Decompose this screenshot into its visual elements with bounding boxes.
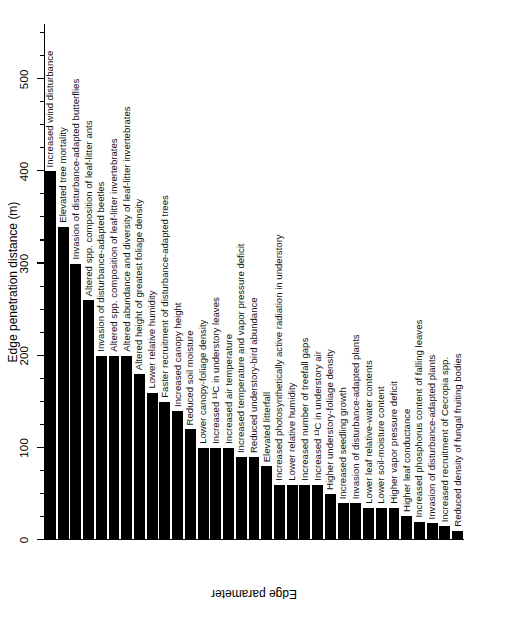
bar-row: Faster recruitment of disturbance-adapte… <box>159 24 170 540</box>
bar-row: Increased photosynthetically active radi… <box>274 24 285 540</box>
bar <box>96 356 107 540</box>
bar-label: Elevated tree mortality <box>58 127 68 222</box>
bar-row: Lower leaf relative-water contents <box>363 24 374 540</box>
bar <box>210 448 221 540</box>
bar-label: Reduced density of fungal fruiting bodie… <box>453 353 463 526</box>
bar-label: Increased photosynthetically active radi… <box>274 234 284 480</box>
bar <box>350 503 361 540</box>
bar <box>147 393 158 540</box>
axis-tick-minor-225 <box>40 332 45 333</box>
bar-row: Altered height of greatest foliage densi… <box>134 24 145 540</box>
plot-area: 0100200300400500 Increased wind disturba… <box>44 24 464 540</box>
bar-row: Higher understory-foliage density <box>325 24 336 540</box>
axis-tick-major-300 <box>37 262 44 263</box>
bar-row: Elevated tree mortality <box>58 24 69 540</box>
bar-row: Invasion of disturbance-adapted beetles <box>96 24 107 540</box>
bar-label: Reduced soil moisture <box>185 331 195 426</box>
bar-row: Increased canopy height <box>172 24 183 540</box>
bar-row: Lower relative humidity <box>287 24 298 540</box>
axis-tick-minor-375 <box>40 193 45 194</box>
bar-row: Higher vapor pressure deficit <box>389 24 400 540</box>
bar-label: Increased ¹³C in understory leaves <box>211 297 221 444</box>
axis-tick-label-400: 400 <box>18 162 30 182</box>
bar-label: Higher understory-foliage density <box>325 349 335 490</box>
bar <box>121 356 132 540</box>
axis-tick-minor-125 <box>40 424 45 425</box>
bar-label: Increased canopy height <box>173 302 183 407</box>
bar-row: Increased air temperature <box>223 24 234 540</box>
bar-row: Increased seedling growth <box>338 24 349 540</box>
axis-tick-label-500: 500 <box>18 69 30 89</box>
bar-label: Invasion of disturbance-adapted plants <box>427 355 437 520</box>
bar-label: Increased wind disturbance <box>45 51 55 168</box>
bar-label: Invasion of disturbance-adapted butterfl… <box>71 79 81 260</box>
bar <box>134 374 145 540</box>
bar <box>439 526 450 540</box>
bar <box>427 523 438 540</box>
bar-label: Increased ¹³C in understory air <box>313 351 323 481</box>
bar-label: Lower leaf relative-water contents <box>364 360 374 503</box>
axis-tick-major-400 <box>37 170 44 171</box>
bar <box>287 485 298 540</box>
bar <box>109 356 120 540</box>
bar-label: Increased phosphorus content of falling … <box>414 320 424 518</box>
bar <box>414 522 425 540</box>
axis-tick-label-200: 200 <box>18 346 30 366</box>
bar-row: Increased ¹³C in understory air <box>312 24 323 540</box>
bar <box>299 485 310 540</box>
bar <box>401 516 412 540</box>
bar-row: Invasion of disturbance-adapted plants <box>427 24 438 540</box>
value-axis-title: Edge penetration distance (m) <box>6 24 20 540</box>
axis-tick-minor-25 <box>40 516 45 517</box>
bar-label: Higher vapor pressure deficit <box>389 381 399 504</box>
bar <box>452 531 463 540</box>
bar <box>236 457 247 540</box>
bar <box>198 448 209 540</box>
axis-tick-minor-175 <box>40 378 45 379</box>
bar-row: Higher leaf conductance <box>401 24 412 540</box>
bar <box>261 466 272 540</box>
axis-tick-minor-250 <box>40 309 45 310</box>
bar <box>45 171 56 540</box>
bar-row: Increased ¹³C in understory leaves <box>210 24 221 540</box>
bar-row: Increased wind disturbance <box>45 24 56 540</box>
bar-row: Lower canopy-foliage density <box>198 24 209 540</box>
bar <box>312 485 323 540</box>
bar-label: Altered spp. composition of leaf-litter … <box>109 138 119 351</box>
bar-row: Increased recruitment of Cecropia spp. <box>439 24 450 540</box>
bar <box>70 264 81 540</box>
axis-tick-major-100 <box>37 447 44 448</box>
bar <box>172 411 183 540</box>
bar-label: Increased temperature and vapor pressure… <box>236 244 246 454</box>
bar <box>58 227 69 540</box>
axis-tick-minor-150 <box>40 401 45 402</box>
bar <box>274 485 285 540</box>
bar-label: Altered abundance and diversity of leaf-… <box>122 106 132 351</box>
bar-row: Increased temperature and vapor pressure… <box>236 24 247 540</box>
axis-tick-minor-525 <box>40 55 45 56</box>
bar-label: Altered spp. composition of leaf-litter … <box>84 120 94 296</box>
bar-label: Higher leaf conductance <box>402 409 412 512</box>
bar <box>325 494 336 540</box>
bar <box>363 508 374 540</box>
bar-row: Altered abundance and diversity of leaf-… <box>121 24 132 540</box>
axis-tick-minor-50 <box>40 493 45 494</box>
axis-tick-minor-550 <box>40 32 45 33</box>
bar <box>338 503 349 540</box>
bar-label: Increased air temperature <box>224 334 234 444</box>
bar-label: Lower relative humidity <box>287 383 297 481</box>
bar-row: Invasion of disturbance-adapted plants <box>350 24 361 540</box>
axis-tick-minor-425 <box>40 147 45 148</box>
bar-label: Elevated litterfall <box>262 392 272 462</box>
bar-chart-figure: Edge penetration distance (m) Edge param… <box>0 0 512 618</box>
bar-row: Reduced soil moisture <box>185 24 196 540</box>
bar-label: Faster recruitment of disturbance-adapte… <box>160 195 170 398</box>
rotated-figure-wrapper: Edge penetration distance (m) Edge param… <box>0 0 512 618</box>
bar <box>376 508 387 540</box>
axis-tick-label-0: 0 <box>18 537 30 544</box>
bar-row: Increased phosphorus content of falling … <box>414 24 425 540</box>
axis-tick-minor-275 <box>40 286 45 287</box>
bar-row: Elevated litterfall <box>261 24 272 540</box>
bar-row: Reduced understory-bird abundance <box>249 24 260 540</box>
category-axis-title-holder: Edge parameter <box>44 586 464 602</box>
